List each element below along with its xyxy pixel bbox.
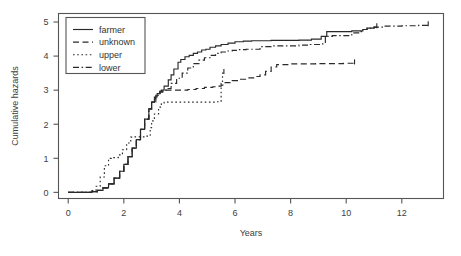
legend-label-lower: lower [99,63,121,73]
curve-unknown [68,63,354,192]
y-axis-title: Cumulative hazards [10,66,20,146]
y-tick-label: 0 [43,188,48,198]
legend-label-farmer: farmer [99,25,125,35]
chart-legend: farmerunknownupperlower [66,18,145,74]
x-axis-title: Years [240,228,263,238]
curve-upper [68,72,224,192]
x-axis-ticks: 024681012 [66,199,407,218]
y-axis-ticks: 012345 [43,17,58,197]
x-tick-label: 6 [233,208,238,218]
y-tick-label: 4 [43,51,48,61]
y-tick-label: 1 [43,154,48,164]
plot-canvas: 024681012 012345 YearsCumulative hazards… [0,0,461,256]
x-tick-label: 2 [121,208,126,218]
x-tick-label: 8 [288,208,293,218]
x-tick-label: 4 [177,208,182,218]
y-tick-label: 2 [43,120,48,130]
x-tick-label: 0 [66,208,71,218]
y-tick-label: 5 [43,17,48,27]
y-tick-label: 3 [43,85,48,95]
legend-label-upper: upper [99,50,122,60]
cumulative-hazards-figure: 024681012 012345 YearsCumulative hazards… [0,0,461,256]
x-tick-label: 12 [397,208,407,218]
legend-label-unknown: unknown [99,37,135,47]
x-tick-label: 10 [341,208,351,218]
